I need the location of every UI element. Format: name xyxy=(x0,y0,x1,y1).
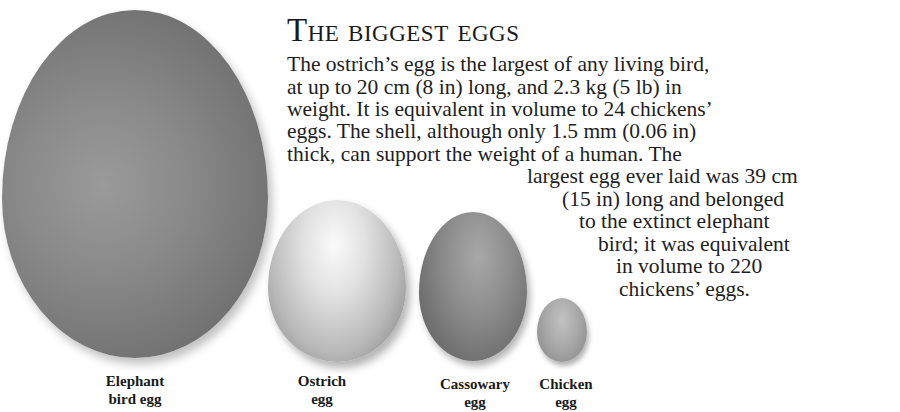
label-line: Cassowary xyxy=(420,375,530,393)
body-line: in volume to 220 xyxy=(616,255,762,277)
label-line: egg xyxy=(526,393,606,411)
cassowary-egg-image xyxy=(419,212,527,361)
body-line: chickens’ eggs. xyxy=(619,278,750,300)
page-title: The biggest eggs xyxy=(287,12,520,48)
ostrich-egg-image xyxy=(268,200,406,362)
elephant-bird-egg-label: Elephant bird egg xyxy=(60,372,210,408)
body-line: weight. It is equivalent in volume to 24… xyxy=(287,98,713,120)
body-line: The ostrich’s egg is the largest of any … xyxy=(287,53,709,75)
cassowary-egg-label: Cassowary egg xyxy=(420,375,530,411)
body-line: largest egg ever laid was 39 cm xyxy=(527,165,798,187)
chicken-egg-image xyxy=(537,298,587,362)
ostrich-egg-label: Ostrich egg xyxy=(270,372,374,408)
body-line: to the extinct elephant xyxy=(579,210,769,232)
body-line: at up to 20 cm (8 in) long, and 2.3 kg (… xyxy=(287,76,682,98)
label-line: bird egg xyxy=(60,390,210,408)
label-line: Chicken xyxy=(526,375,606,393)
elephant-bird-egg-image xyxy=(2,10,268,358)
body-line: thick, can support the weight of a human… xyxy=(287,143,682,165)
body-line: eggs. The shell, although only 1.5 mm (0… xyxy=(287,120,696,142)
body-line: bird; it was equivalent xyxy=(598,233,790,255)
label-line: egg xyxy=(270,390,374,408)
body-line: (15 in) long and belonged xyxy=(562,188,784,210)
label-line: Ostrich xyxy=(270,372,374,390)
label-line: egg xyxy=(420,393,530,411)
label-line: Elephant xyxy=(60,372,210,390)
chicken-egg-label: Chicken egg xyxy=(526,375,606,411)
